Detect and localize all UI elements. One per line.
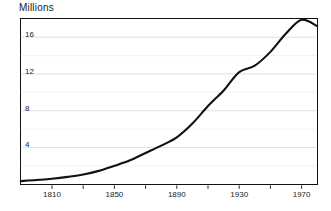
y-axis-label-8: 8 [25,104,29,113]
population-line [21,20,317,182]
x-axis-ticks [52,185,302,188]
x-axis-label-1810: 1810 [43,190,61,199]
y-axis-label-4: 4 [25,140,29,149]
x-axis-label-1890: 1890 [168,190,186,199]
x-axis-label-1970: 1970 [293,190,311,199]
y-axis-label-16: 16 [25,30,34,39]
chart-container: Millions 161284 18101850189019301970 [0,0,331,211]
x-axis-labels: 18101850189019301970 [0,190,331,204]
y-axis-label-12: 12 [25,67,34,76]
gridlines [21,37,317,166]
y-axis-labels: 161284 [0,18,40,185]
chart-canvas [0,0,331,211]
x-axis-label-1930: 1930 [230,190,248,199]
x-axis-label-1850: 1850 [105,190,123,199]
